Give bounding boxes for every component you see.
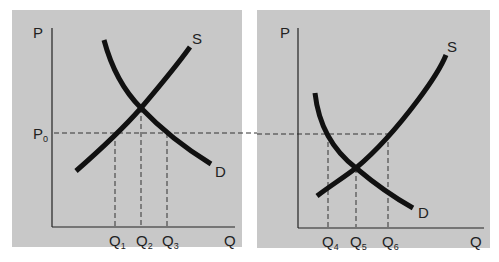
left-panel-background bbox=[12, 10, 242, 247]
left-x-axis-label: Q bbox=[224, 232, 236, 249]
left-supply-label: S bbox=[192, 30, 202, 47]
left-y-axis-label: P bbox=[33, 24, 43, 41]
right-panel: P S D Q4 Q5 Q6 Q bbox=[257, 10, 490, 252]
right-x-axis-label: Q bbox=[470, 233, 482, 250]
right-supply-label: S bbox=[447, 38, 457, 55]
right-demand-label: D bbox=[418, 204, 429, 221]
supply-demand-diagram: P P0 S D Q1 Q2 Q3 Q P S D Q4 Q5 Q6 Q bbox=[0, 0, 499, 262]
left-demand-label: D bbox=[215, 163, 226, 180]
right-y-axis-label: P bbox=[280, 24, 290, 41]
